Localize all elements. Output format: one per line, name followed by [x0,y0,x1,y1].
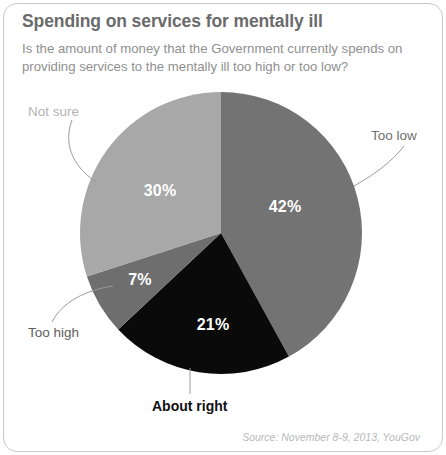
pie-value-too-low: 42% [269,198,302,216]
pie-value-about-right: 21% [197,316,230,334]
pie-label-too-high: Too high [28,325,79,341]
pie-chart: 42% 21% 7% 30% Not sure Too low Too high… [0,0,446,455]
chart-card: Spending on services for mentally ill Is… [0,0,446,455]
pie-value-not-sure: 30% [144,182,177,200]
pie-label-not-sure: Not sure [28,104,79,120]
pie-label-too-low: Too low [371,128,417,144]
source-attribution: Source: November 8-9, 2013, YouGov [242,431,420,443]
leader-line-too-low [354,146,404,186]
pie-chart-svg [0,0,446,455]
pie-value-too-high: 7% [128,271,152,289]
leader-line-not-sure [69,120,96,182]
pie-label-about-right: About right [152,398,227,414]
